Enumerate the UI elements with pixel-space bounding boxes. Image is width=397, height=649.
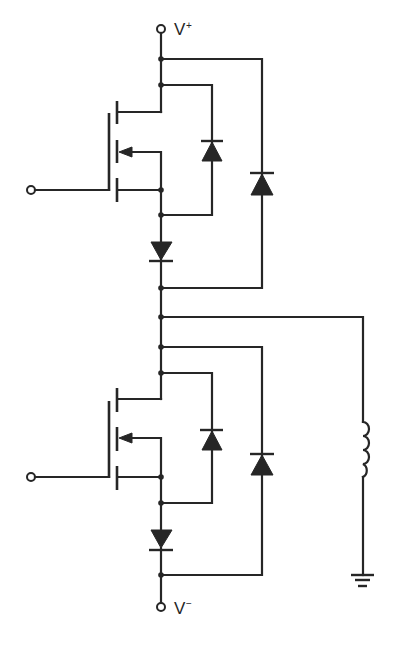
q1-arrow-icon bbox=[119, 147, 132, 157]
vplus-superscript: + bbox=[186, 20, 192, 31]
d3-triangle-icon bbox=[251, 174, 273, 195]
inductor-l1-icon bbox=[363, 422, 369, 477]
mosfet-q2 bbox=[109, 388, 132, 490]
vplus-terminal: V + bbox=[157, 20, 192, 39]
lower-gate-terminal bbox=[27, 473, 35, 481]
d2-triangle-icon bbox=[151, 242, 172, 260]
diode-d2 bbox=[149, 242, 173, 261]
half-bridge-schematic: V + bbox=[0, 0, 397, 649]
diode-d5 bbox=[149, 530, 173, 550]
upper-gate-terminal bbox=[27, 186, 35, 194]
vminus-superscript: − bbox=[186, 598, 192, 609]
ground-icon bbox=[351, 575, 374, 586]
vplus-terminal-circle bbox=[157, 25, 165, 33]
output-load bbox=[161, 317, 369, 575]
upper-gate-input bbox=[27, 186, 109, 194]
q2-arrow-icon bbox=[119, 433, 132, 443]
d4-triangle-icon bbox=[202, 431, 222, 450]
lower-gate-input bbox=[27, 473, 109, 481]
d6-triangle-icon bbox=[251, 455, 273, 475]
vminus-terminal: V − bbox=[157, 598, 192, 618]
mosfet-q1 bbox=[109, 101, 132, 202]
d1-triangle-icon bbox=[202, 142, 222, 161]
d5-triangle-icon bbox=[151, 530, 172, 548]
diode-d1 bbox=[201, 141, 223, 161]
diode-d3 bbox=[250, 173, 274, 195]
diode-d4 bbox=[200, 430, 223, 450]
vminus-label: V bbox=[174, 599, 186, 618]
vminus-terminal-circle bbox=[157, 603, 165, 611]
upper-spine-wires bbox=[118, 33, 262, 347]
diode-d6 bbox=[250, 454, 274, 475]
vplus-label: V bbox=[174, 20, 186, 39]
lower-spine-wires bbox=[118, 347, 262, 603]
